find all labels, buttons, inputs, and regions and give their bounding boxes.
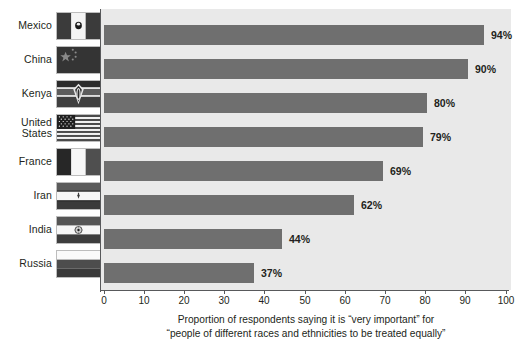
bar-mexico — [104, 25, 484, 45]
category-row-iran: Iran — [0, 179, 101, 213]
category-label: United States — [21, 117, 56, 140]
flag-russia-icon — [56, 250, 101, 278]
plot-area: 94% 90% 80% 79% 69% 62% 44% 37% — [101, 9, 511, 290]
category-row-india: India — [0, 213, 101, 247]
x-tick — [425, 290, 426, 294]
category-label: Russia — [19, 258, 56, 270]
flag-china-icon — [56, 46, 101, 74]
flag-india-icon — [56, 216, 101, 244]
x-tick-label: 70 — [379, 295, 390, 306]
category-row-mexico: Mexico — [0, 9, 101, 43]
category-label: Iran — [34, 190, 57, 202]
category-label: Kenya — [22, 88, 56, 100]
bar-value-mexico: 94% — [491, 25, 512, 45]
x-tick-label: 10 — [138, 295, 149, 306]
x-tick — [345, 290, 346, 294]
x-tick-label: 30 — [218, 295, 229, 306]
flag-united-states-icon — [56, 114, 101, 142]
x-tick-label: 100 — [498, 295, 515, 306]
x-axis-caption: Proportion of respondents saying it is “… — [101, 313, 511, 340]
bar-russia — [104, 263, 254, 283]
flag-mexico-icon — [56, 12, 101, 40]
category-axis: Mexico China — [0, 9, 101, 281]
bar-value-iran: 62% — [361, 195, 382, 215]
flag-iran-icon — [56, 182, 101, 210]
x-tick-label: 20 — [178, 295, 189, 306]
bar-iran — [104, 195, 354, 215]
x-axis: 0 10 20 30 40 50 60 70 80 90 100 — [101, 290, 511, 312]
x-tick — [184, 290, 185, 294]
category-row-kenya: Kenya — [0, 77, 101, 111]
category-label: India — [29, 224, 56, 236]
x-tick — [305, 290, 306, 294]
bar-value-kenya: 80% — [434, 93, 455, 113]
bar-value-russia: 37% — [261, 263, 282, 283]
flag-france-icon — [56, 148, 101, 176]
category-row-russia: Russia — [0, 247, 101, 281]
bar-value-united-states: 79% — [430, 127, 451, 147]
x-tick — [465, 290, 466, 294]
x-tick — [224, 290, 225, 294]
caption-line-1: Proportion of respondents saying it is “… — [101, 313, 511, 327]
category-row-united-states: United States — [0, 111, 101, 145]
bar-kenya — [104, 93, 427, 113]
bar-value-india: 44% — [289, 229, 310, 249]
category-label: Mexico — [18, 20, 56, 32]
x-tick-label: 0 — [101, 295, 107, 306]
x-tick — [506, 290, 507, 294]
x-tick-label: 80 — [419, 295, 430, 306]
bar-value-china: 90% — [475, 59, 496, 79]
horizontal-bar-chart: Mexico China — [0, 0, 523, 343]
y-axis-line — [100, 9, 101, 292]
bar-china — [104, 59, 468, 79]
x-tick — [264, 290, 265, 294]
x-tick-label: 40 — [258, 295, 269, 306]
category-label: China — [24, 54, 56, 66]
x-tick-label: 90 — [459, 295, 470, 306]
caption-line-2: “people of different races and ethniciti… — [101, 327, 511, 341]
bar-value-france: 69% — [390, 161, 411, 181]
x-tick — [144, 290, 145, 294]
category-row-china: China — [0, 43, 101, 77]
bar-united-states — [104, 127, 423, 147]
bar-france — [104, 161, 383, 181]
category-row-france: France — [0, 145, 101, 179]
bar-india — [104, 229, 282, 249]
category-label: France — [19, 156, 56, 168]
flag-kenya-icon — [56, 80, 101, 108]
x-tick — [385, 290, 386, 294]
x-tick-label: 60 — [339, 295, 350, 306]
x-tick — [104, 290, 105, 294]
x-tick-label: 50 — [299, 295, 310, 306]
